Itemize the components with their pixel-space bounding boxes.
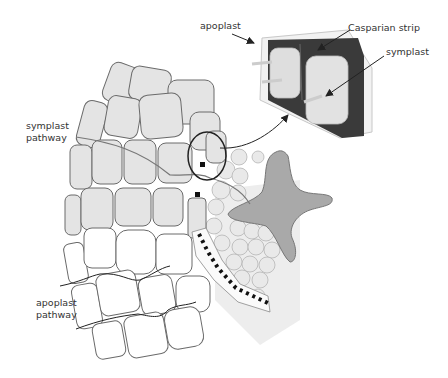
label-apoplast-pathway-line2: pathway bbox=[36, 309, 77, 321]
plasmodesma-marker bbox=[195, 192, 200, 197]
root-cross-section-diagram: apoplast Casparian strip symplast sympla… bbox=[0, 0, 448, 378]
cortex-cells-symplast-region bbox=[65, 60, 226, 238]
label-symplast: symplast bbox=[386, 46, 429, 58]
label-symplast-pathway-line2: pathway bbox=[26, 132, 69, 144]
plasmodesma-marker bbox=[200, 162, 205, 167]
label-casparian-strip: Casparian strip bbox=[348, 22, 420, 34]
cortex-cells-apoplast-region bbox=[63, 228, 210, 360]
label-apoplast-pathway: apoplast pathway bbox=[36, 297, 77, 321]
label-apoplast: apoplast bbox=[200, 20, 241, 32]
endodermis-inset-casparian-strip bbox=[252, 30, 372, 138]
label-symplast-pathway: symplast pathway bbox=[26, 120, 69, 144]
label-apoplast-pathway-line1: apoplast bbox=[36, 297, 77, 309]
label-symplast-pathway-line1: symplast bbox=[26, 120, 69, 132]
magnify-arrow bbox=[220, 115, 288, 148]
diagram-svg bbox=[0, 0, 448, 378]
apoplast-arrow bbox=[232, 34, 254, 43]
